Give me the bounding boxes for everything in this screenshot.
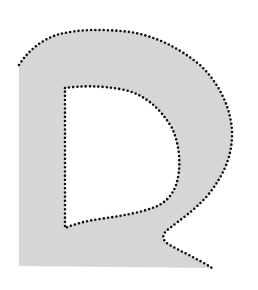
image-canvas: Gray letter-shaped region with a black d…: [0, 0, 258, 290]
letter-shape-figure: [0, 0, 258, 290]
